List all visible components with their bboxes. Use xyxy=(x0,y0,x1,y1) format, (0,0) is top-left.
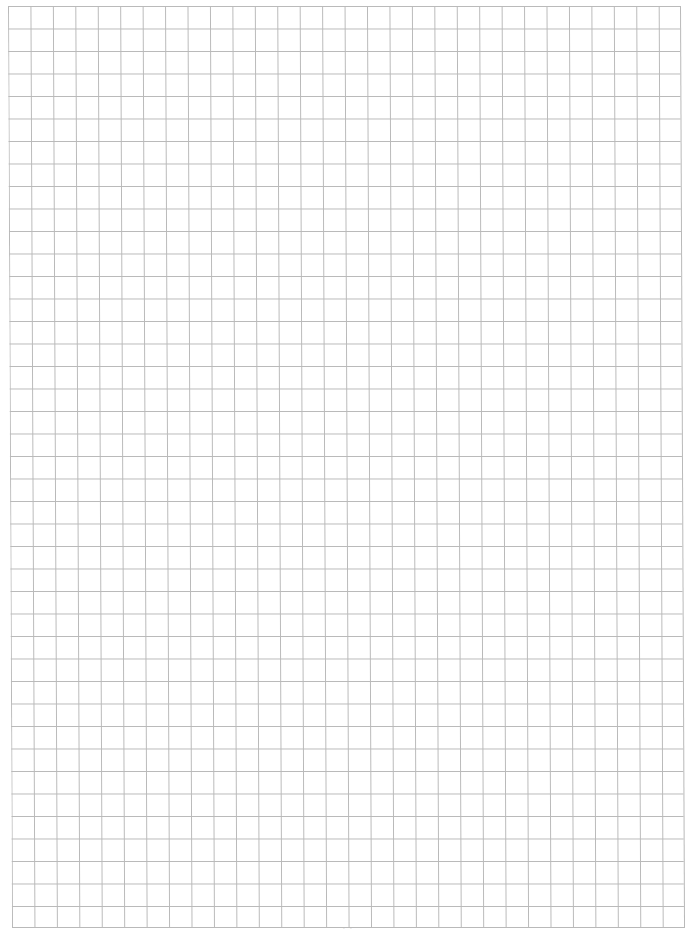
page-footer-mark: - - xyxy=(343,925,354,931)
grid-lines xyxy=(8,6,685,928)
